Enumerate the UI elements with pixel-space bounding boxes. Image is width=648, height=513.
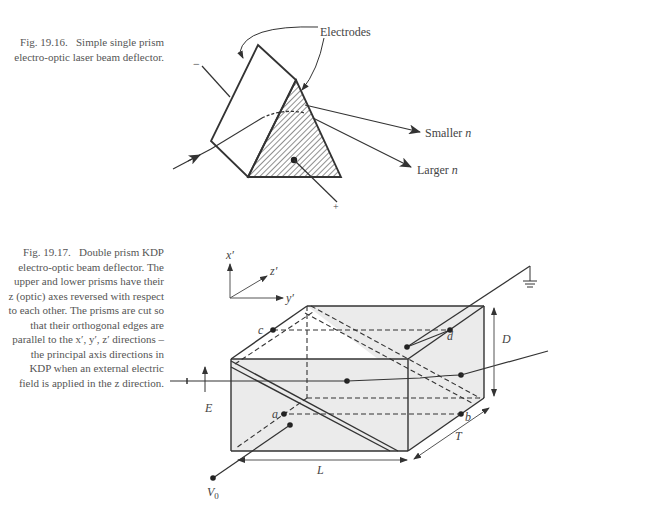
field-e-label: E — [204, 401, 213, 415]
contact-dot-c — [270, 327, 276, 333]
axis-y-label: y′ — [285, 291, 294, 305]
smaller-n-label: Smaller n — [425, 126, 471, 140]
dim-t-label: T — [455, 429, 463, 443]
contact-dot-a — [281, 411, 287, 417]
dim-d-label: D — [501, 332, 511, 346]
single-prism-deflector: − + Smaller n Larger n Electrodes — [173, 25, 471, 212]
double-prism-deflector: x′ y′ z′ — [170, 248, 548, 501]
voltage-label: V0 — [207, 485, 219, 501]
minus-label: − — [193, 57, 200, 71]
incident-arrow — [188, 155, 200, 161]
axis-x-label: x′ — [225, 248, 234, 262]
contact-dot-b — [458, 411, 464, 417]
point-a-label: a — [272, 407, 278, 421]
dim-l-label: L — [316, 463, 324, 477]
beam-smaller-n — [305, 105, 420, 132]
minus-lead — [202, 66, 230, 97]
electrodes-callout-back — [240, 27, 318, 58]
plus-label: + — [333, 201, 339, 212]
axis-triad: x′ y′ z′ — [225, 248, 294, 305]
voltage-terminal — [210, 475, 216, 481]
point-d-label: d — [447, 329, 454, 343]
larger-n-label: Larger n — [417, 163, 458, 177]
electrodes-callout-front — [302, 38, 324, 90]
diagram-canvas: − + Smaller n Larger n Electrodes x′ y′ … — [0, 0, 648, 513]
point-b-label: b — [465, 410, 471, 424]
contact-dot-d-inner — [404, 344, 410, 350]
point-c-label: c — [258, 323, 264, 337]
electrodes-label: Electrodes — [320, 25, 371, 39]
axis-z-label: z′ — [269, 264, 278, 278]
box-front-face — [231, 359, 408, 451]
